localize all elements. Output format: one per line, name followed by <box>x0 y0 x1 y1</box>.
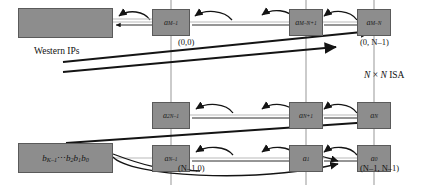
figure-canvas: Western IPs bK–1⋯b2b1b0 aM–1 aM–N+1 aM–N… <box>0 0 440 185</box>
middle-row-hop-arrows <box>196 104 357 113</box>
b-register-ellipsis: ⋯ <box>57 153 66 163</box>
coordinate-bottom-right: (N–1, N–1) <box>360 163 399 173</box>
cell-a-1[interactable]: a1 <box>289 145 323 172</box>
b-register-expression: bK–1⋯b2b1b0 <box>42 153 88 163</box>
isa-label-text: ISA <box>389 70 404 80</box>
column-wires <box>171 0 374 185</box>
isa-label-times: × <box>373 70 378 80</box>
cell-a-N-subscript: N <box>374 113 378 119</box>
cell-a-M-minus-N-plus-1-subscript: M–N+1 <box>299 20 316 26</box>
isa-label-n2: N <box>380 70 386 80</box>
isa-array-label: N × N ISA <box>364 70 404 80</box>
isa-label-n1: N <box>364 70 370 80</box>
western-ips-block[interactable] <box>18 8 113 38</box>
cell-a-1-subscript: 1 <box>307 156 310 162</box>
cell-a-M-minus-N-subscript: M–N <box>371 20 382 26</box>
cell-a-N-plus-1-subscript: N+1 <box>303 113 313 119</box>
coordinate-bottom-left: (N–1,0) <box>178 163 205 173</box>
b-0-subscript: 0 <box>86 157 89 163</box>
cell-a-2N-minus-1[interactable]: a2N–1 <box>152 102 190 129</box>
cell-a-M-minus-1-subscript: M–1 <box>168 20 178 26</box>
cell-a-N-minus-1-subscript: N–1 <box>168 156 177 162</box>
coordinate-top-left: (0,0) <box>178 37 194 47</box>
cell-a-N[interactable]: aN <box>357 102 391 129</box>
wraparound-diagonals <box>63 31 372 143</box>
cell-a-M-minus-1[interactable]: aM–1 <box>152 9 190 36</box>
bottom-row-hop-arrows <box>196 147 357 155</box>
cell-a-M-minus-N[interactable]: aM–N <box>357 9 391 36</box>
cell-a-2N-minus-1-subscript: 2N–1 <box>167 113 179 119</box>
western-ips-label: Western IPs <box>34 46 79 56</box>
cell-a-0-subscript: 0 <box>375 156 378 162</box>
cell-a-M-minus-N-plus-1[interactable]: aM–N+1 <box>289 9 323 36</box>
cell-a-N-plus-1[interactable]: aN+1 <box>289 102 323 129</box>
b-k-minus-1-subscript: K–1 <box>47 157 57 163</box>
b-register-block[interactable]: bK–1⋯b2b1b0 <box>18 143 113 173</box>
coordinate-top-right: (0, N–1) <box>360 37 389 47</box>
